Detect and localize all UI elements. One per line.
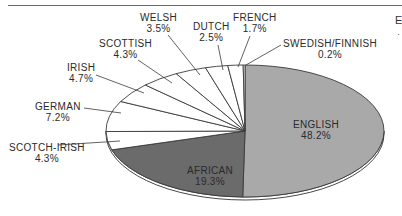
label-irish: IRISH 4.7%	[67, 62, 95, 84]
label-african-name: AFRICAN	[187, 165, 233, 176]
label-scotch-irish-pct: 4.3%	[9, 153, 85, 164]
label-french: FRENCH 1.7%	[233, 12, 276, 34]
label-scottish-pct: 4.3%	[99, 49, 152, 60]
label-welsh-pct: 3.5%	[140, 23, 177, 34]
leader-line	[246, 45, 281, 65]
label-english-name: ENGLISH	[293, 119, 339, 130]
label-irish-pct: 4.7%	[67, 73, 95, 84]
label-scotch-irish: SCOTCH-IRISH 4.3%	[9, 142, 85, 164]
label-english-pct: 48.2%	[293, 130, 339, 141]
label-irish-name: IRISH	[67, 62, 95, 73]
cropped-text-fragment: E	[395, 14, 402, 26]
label-dutch-pct: 2.5%	[193, 32, 230, 43]
label-swedish-finnish: SWEDISH/FINNISH 0.2%	[283, 38, 377, 60]
label-scotch-irish-name: SCOTCH-IRISH	[9, 142, 85, 153]
label-scottish-name: SCOTTISH	[99, 38, 152, 49]
label-english: ENGLISH 48.2%	[293, 119, 339, 141]
label-swedish-finnish-pct: 0.2%	[283, 49, 377, 60]
label-swedish-finnish-name: SWEDISH/FINNISH	[283, 38, 377, 49]
label-welsh: WELSH 3.5%	[140, 12, 177, 34]
cropped-text-fragment-dot: ·	[397, 29, 400, 39]
label-french-name: FRENCH	[233, 12, 276, 23]
label-african: AFRICAN 19.3%	[187, 165, 233, 187]
label-dutch: DUTCH 2.5%	[193, 21, 230, 43]
label-african-pct: 19.3%	[187, 176, 233, 187]
leader-line	[238, 36, 250, 67]
leader-line	[138, 60, 172, 83]
label-french-pct: 1.7%	[233, 23, 276, 34]
label-welsh-name: WELSH	[140, 12, 177, 23]
label-dutch-name: DUTCH	[193, 21, 230, 32]
leader-line	[96, 75, 144, 93]
label-scottish: SCOTTISH 4.3%	[99, 38, 152, 60]
label-german: GERMAN 7.2%	[35, 101, 81, 123]
label-german-name: GERMAN	[35, 101, 81, 112]
label-german-pct: 7.2%	[35, 112, 81, 123]
